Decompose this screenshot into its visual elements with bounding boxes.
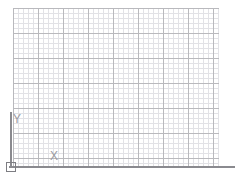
y-axis-label: Y [13,113,21,125]
x-axis-label: X [50,150,58,162]
drawing-canvas[interactable]: Y X [0,0,235,181]
x-axis-line [9,166,235,168]
graph-paper-grid [13,8,219,167]
ucs-origin-square[interactable] [6,162,16,172]
y-axis-line [10,112,12,168]
